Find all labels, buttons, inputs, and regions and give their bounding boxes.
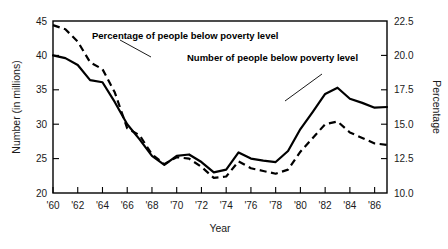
y-axis-left-tick-label: 35: [36, 84, 48, 95]
y-axis-left-tick-label: 30: [36, 119, 48, 130]
chart-svg: 202530354045 10.012.515.017.520.022.5 '6…: [0, 0, 448, 249]
x-axis-tick-label: '84: [343, 200, 356, 211]
x-axis-tick-label: '68: [145, 200, 158, 211]
y-axis-right-tick-label: 12.5: [394, 153, 414, 164]
y-axis-right-title: Percentage: [431, 80, 443, 134]
annotation-number-label: Number of people below poverty level: [187, 52, 358, 63]
y-axis-left-tick-label: 45: [36, 16, 48, 27]
plot-frame: [53, 21, 387, 193]
y-axis-right-tick-label: 22.5: [394, 16, 414, 27]
y-axis-left-tick-label: 25: [36, 153, 48, 164]
x-axis-title: Year: [209, 222, 231, 234]
annotation-percentage-label: Percentage of people below poverty level: [92, 30, 278, 41]
x-axis-tick-label: '64: [96, 200, 109, 211]
y-axis-right-tick-label: 15.0: [394, 119, 414, 130]
x-axis-tick-label: '62: [71, 200, 84, 211]
x-axis-tick-label: '74: [220, 200, 233, 211]
x-axis-tick-label: '86: [368, 200, 381, 211]
x-axis-tick-label: '80: [294, 200, 307, 211]
y-axis-right-tick-label: 17.5: [394, 84, 414, 95]
x-axis-tick-label: '72: [195, 200, 208, 211]
x-axis-tick-label: '66: [121, 200, 134, 211]
y-axis-left-tick-label: 40: [36, 50, 48, 61]
x-axis-tick-label: '78: [269, 200, 282, 211]
x-axis-tick-label: '70: [170, 200, 183, 211]
poverty-trend-chart: 202530354045 10.012.515.017.520.022.5 '6…: [0, 0, 448, 249]
y-axis-left-title: Number (in millions): [10, 60, 22, 153]
y-axis-right-tick-label: 20.0: [394, 50, 414, 61]
y-axis-left-tick-label: 20: [36, 188, 48, 199]
x-axis-tick-label: '82: [319, 200, 332, 211]
x-axis-tick-label: '76: [244, 200, 257, 211]
x-axis-tick-label: '60: [46, 200, 59, 211]
y-axis-right-tick-label: 10.0: [394, 188, 414, 199]
